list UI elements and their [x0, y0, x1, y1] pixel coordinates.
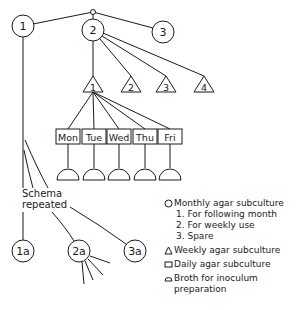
edge	[85, 261, 93, 280]
edge	[93, 92, 94, 129]
daily-node-fri-label: Fri	[164, 132, 175, 143]
legend-broth-line-1: Broth for inoculum	[174, 273, 258, 283]
edge	[25, 140, 48, 188]
repeat-node-1a-label: 1a	[16, 245, 30, 258]
legend-sub-item: 3. Spare	[176, 231, 296, 242]
edge	[93, 92, 119, 129]
legend-monthly-sublist: 1. For following month 2. For weekly use…	[162, 209, 296, 242]
weekly-node-2-label: 2	[128, 82, 134, 93]
daily-node-tue-label: Tue	[85, 132, 102, 143]
legend-item-broth: Broth for inoculum preparation	[162, 273, 296, 295]
root-node-3-label: 3	[160, 26, 167, 39]
root-node-2-label: 2	[90, 24, 97, 37]
repeat-node-3a-label: 3a	[128, 245, 142, 258]
schema-label-line-1: Schema	[22, 188, 67, 199]
edge	[33, 12, 93, 24]
circle-icon	[162, 198, 174, 208]
edge	[82, 262, 84, 284]
broth-node	[57, 169, 79, 180]
weekly-node-4-label: 4	[201, 82, 207, 93]
legend-item-daily: Daily agar subculture	[162, 259, 296, 270]
edge	[52, 212, 74, 241]
edge	[68, 92, 93, 129]
schema-label-line-2: repeated	[22, 199, 67, 210]
legend-item-weekly: Weekly agar subculture	[162, 245, 296, 256]
legend-label-daily: Daily agar subculture	[174, 259, 296, 270]
dome-icon	[162, 273, 174, 283]
broth-node	[134, 169, 156, 180]
square-icon	[162, 259, 174, 269]
edge	[103, 33, 204, 76]
broth-node	[83, 169, 105, 180]
legend-broth-line-2: preparation	[174, 284, 226, 294]
broth-node	[159, 169, 181, 180]
schema-repeated-label: Schema repeated	[22, 188, 67, 210]
repeat-node-2a-label: 2a	[72, 245, 86, 258]
edge	[93, 92, 170, 129]
triangle-icon	[162, 245, 174, 255]
legend-label-monthly: Monthly agar subculture	[174, 198, 296, 209]
edge	[93, 92, 145, 129]
weekly-node-3-label: 3	[163, 82, 169, 93]
root-node-1-label: 1	[20, 20, 27, 33]
daily-node-wed-label: Wed	[109, 132, 130, 143]
edge	[90, 256, 110, 263]
legend-sub-item: 1. For following month	[176, 209, 296, 220]
weekly-node-1-label: 1	[90, 82, 96, 93]
legend-item-monthly: Monthly agar subculture	[162, 198, 296, 209]
legend-label-broth: Broth for inoculum preparation	[174, 273, 296, 295]
daily-node-mon-label: Mon	[58, 132, 78, 143]
legend-label-weekly: Weekly agar subculture	[174, 245, 296, 256]
broth-node	[108, 169, 130, 180]
daily-node-thu-label: Thu	[135, 132, 154, 143]
edge	[70, 207, 126, 244]
legend: Monthly agar subculture 1. For following…	[162, 198, 296, 298]
legend-sub-item: 2. For weekly use	[176, 220, 296, 231]
junction-dot	[91, 10, 96, 15]
